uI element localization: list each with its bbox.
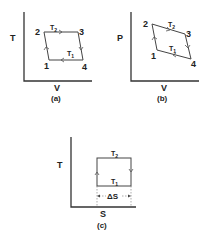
carnot-cycle-diagrams: T V (a) 2 3 4 1 T2 T1 P V (b) 2 3 4 1 T2… (0, 0, 214, 231)
point-label: 2 (35, 27, 40, 37)
diagram-a: T V (a) 2 3 4 1 T2 T1 (10, 12, 92, 103)
arrowhead-icon (128, 195, 131, 198)
edge-label-t1: T1 (169, 45, 176, 54)
diagram-b: P V (b) 2 3 4 1 T2 T1 (117, 12, 199, 103)
point-label: 1 (44, 61, 49, 71)
point-label: 1 (151, 51, 156, 61)
y-axis-label-b: P (117, 33, 123, 43)
point-label: 3 (186, 29, 191, 39)
point-label: 3 (79, 27, 84, 37)
cycle-path-a (44, 32, 83, 60)
arrowhead-icon (97, 195, 100, 198)
caption-c: (c) (97, 221, 107, 230)
caption-a: (a) (51, 94, 61, 103)
diagram-c: T S (c) ΔS T2 T1 (57, 137, 136, 230)
x-axis-label-b: V (161, 83, 167, 93)
y-axis-label-c: T (57, 160, 63, 170)
y-axis-label-a: T (10, 33, 16, 43)
x-axis-label-a: V (54, 83, 60, 93)
point-label: 4 (82, 62, 87, 72)
caption-b: (b) (157, 94, 168, 103)
axes-c (71, 137, 136, 207)
x-axis-label-c: S (100, 209, 106, 219)
edge-label-t1: T1 (67, 50, 74, 59)
point-label: 2 (143, 19, 148, 29)
delta-s-label: ΔS (107, 192, 119, 201)
point-label: 4 (191, 59, 196, 69)
